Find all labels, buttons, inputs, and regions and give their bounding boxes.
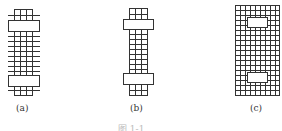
- figure-b-label: (b): [130, 103, 143, 113]
- figure-caption: 图 1-1: [118, 122, 144, 131]
- figure-c-label: (c): [250, 103, 262, 113]
- figure-b-grid: [124, 8, 154, 96]
- figure-a-label: (a): [16, 103, 28, 113]
- figure-c-grid: [235, 5, 280, 96]
- figure-a-grid: [8, 9, 40, 96]
